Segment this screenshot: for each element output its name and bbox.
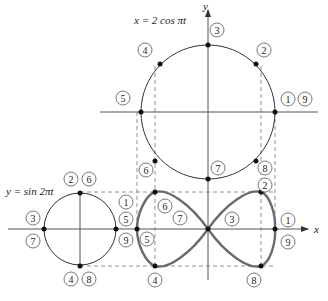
- label-3: 3: [210, 23, 224, 37]
- svg-text:4: 4: [69, 274, 74, 285]
- label-4: 4: [138, 43, 152, 57]
- svg-text:4: 4: [143, 45, 148, 56]
- top-circle-labels: 3 2 4 5 1 9 6 7 8: [116, 23, 312, 177]
- svg-text:3: 3: [215, 25, 220, 36]
- svg-text:5: 5: [145, 234, 150, 245]
- y-equation: y = sin 2πt: [5, 185, 54, 197]
- label-1: 1: [281, 213, 295, 227]
- svg-text:6: 6: [144, 165, 149, 176]
- points: [42, 43, 278, 269]
- label-5: 5: [119, 212, 133, 226]
- label-6: 6: [82, 172, 96, 186]
- svg-text:8: 8: [87, 274, 92, 285]
- label-9: 9: [119, 233, 133, 247]
- label-8: 8: [247, 273, 261, 287]
- label-7: 7: [173, 211, 187, 225]
- svg-text:1: 1: [286, 94, 291, 105]
- label-2: 2: [64, 172, 78, 186]
- label-9: 9: [281, 235, 295, 249]
- svg-text:7: 7: [178, 213, 183, 224]
- projection-lines: [80, 66, 275, 266]
- label-3: 3: [26, 211, 40, 225]
- label-4: 4: [148, 273, 162, 287]
- label-8: 8: [82, 272, 96, 286]
- svg-text:2: 2: [263, 180, 268, 191]
- svg-text:9: 9: [124, 235, 129, 246]
- svg-text:6: 6: [163, 201, 168, 212]
- label-8: 8: [258, 161, 272, 175]
- svg-text:5: 5: [124, 214, 129, 225]
- label-7: 7: [26, 234, 40, 248]
- lissajous-diagram: y x x = 2 cos πt y = sin 2πt 3 2 4 5 1: [0, 0, 328, 301]
- x-axis-label: x: [313, 223, 319, 235]
- y-axis-label: y: [202, 0, 208, 12]
- label-2: 2: [257, 43, 271, 57]
- label-2: 2: [258, 178, 272, 192]
- label-6: 6: [158, 199, 172, 213]
- svg-text:2: 2: [262, 45, 267, 56]
- svg-text:8: 8: [263, 163, 268, 174]
- label-7: 7: [211, 161, 225, 175]
- label-6: 6: [139, 163, 153, 177]
- svg-text:8: 8: [252, 275, 257, 286]
- label-9: 9: [298, 92, 312, 106]
- svg-text:7: 7: [216, 163, 221, 174]
- label-5: 5: [116, 91, 130, 105]
- svg-text:2: 2: [69, 174, 74, 185]
- svg-text:9: 9: [286, 237, 291, 248]
- label-1: 1: [281, 92, 295, 106]
- label-3: 3: [225, 212, 239, 226]
- svg-text:4: 4: [153, 275, 158, 286]
- svg-text:5: 5: [121, 93, 126, 104]
- svg-text:7: 7: [31, 236, 36, 247]
- axes: [8, 10, 318, 280]
- svg-text:3: 3: [230, 214, 235, 225]
- curve-labels: 6 7 5 4 3 2 1 9 8: [140, 178, 295, 287]
- label-5: 5: [140, 232, 154, 246]
- svg-text:3: 3: [31, 213, 36, 224]
- svg-text:9: 9: [303, 94, 308, 105]
- label-4: 4: [64, 272, 78, 286]
- x-equation: x = 2 cos πt: [133, 14, 187, 26]
- label-1: 1: [119, 195, 133, 209]
- svg-text:1: 1: [124, 197, 129, 208]
- svg-text:6: 6: [87, 174, 92, 185]
- svg-text:1: 1: [286, 215, 291, 226]
